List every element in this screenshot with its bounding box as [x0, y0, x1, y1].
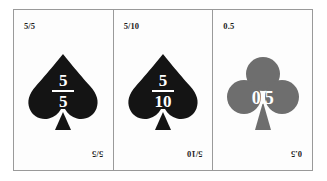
card-2-corner-label-top: 5/10 — [124, 21, 140, 31]
card-1-corner-label-top: 5/5 — [24, 21, 35, 31]
spade-icon — [126, 50, 200, 132]
card-1[interactable]: 5/5 5 5 5/5 — [14, 10, 114, 170]
card-1-pip: 5 5 — [26, 50, 100, 132]
spade-icon — [26, 50, 100, 132]
card-2[interactable]: 5/10 5 10 5/10 — [114, 10, 214, 170]
card-2-corner-label-bottom: 5/10 — [187, 149, 203, 159]
card-3-pip: 0.5 — [226, 50, 300, 132]
card-3[interactable]: 0.5 0.5 0.5 — [213, 10, 312, 170]
figure-canvas: 5/5 5 5 5/5 — [0, 0, 327, 181]
card-1-pip-area: 5 5 — [14, 43, 113, 139]
card-2-pip: 5 10 — [126, 50, 200, 132]
card-set: 5/5 5 5 5/5 — [13, 9, 313, 171]
club-icon — [226, 50, 300, 132]
card-3-corner-label-bottom: 0.5 — [291, 149, 302, 159]
card-2-pip-area: 5 10 — [114, 43, 213, 139]
card-3-corner-label-top: 0.5 — [223, 21, 234, 31]
card-1-corner-label-bottom: 5/5 — [92, 149, 103, 159]
card-3-pip-area: 0.5 — [213, 43, 312, 139]
